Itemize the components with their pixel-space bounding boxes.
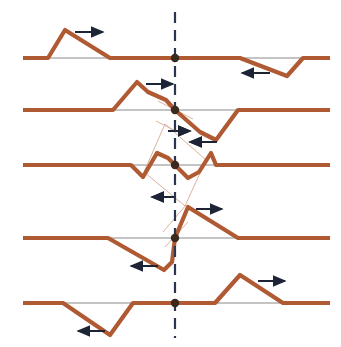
center-point-marker (171, 299, 179, 307)
waveform-figure (0, 0, 341, 347)
center-point-marker (171, 54, 179, 62)
center-point-marker (171, 106, 179, 114)
center-point-marker (171, 161, 179, 169)
center-point-marker (171, 234, 179, 242)
figure-container (0, 0, 341, 347)
